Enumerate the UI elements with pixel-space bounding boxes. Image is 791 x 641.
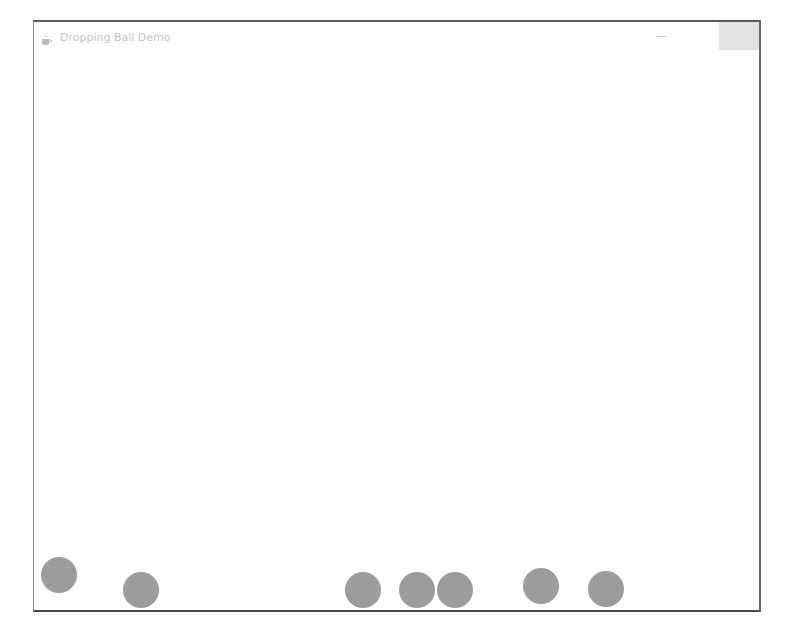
ball xyxy=(437,572,473,608)
minimize-button[interactable] xyxy=(638,22,684,50)
ball xyxy=(399,572,435,608)
maximize-button[interactable] xyxy=(684,22,720,50)
window-title: Dropping Ball Demo xyxy=(60,31,171,44)
app-window: Dropping Ball Demo xyxy=(33,20,761,612)
ball xyxy=(41,557,77,593)
ball xyxy=(345,572,381,608)
java-cup-icon xyxy=(40,31,52,43)
ball xyxy=(523,568,559,604)
minimize-icon xyxy=(656,36,666,37)
ball xyxy=(123,572,159,608)
title-bar[interactable]: Dropping Ball Demo xyxy=(34,22,759,50)
drawing-canvas xyxy=(34,50,759,610)
ball xyxy=(588,571,624,607)
close-button[interactable] xyxy=(719,22,759,50)
